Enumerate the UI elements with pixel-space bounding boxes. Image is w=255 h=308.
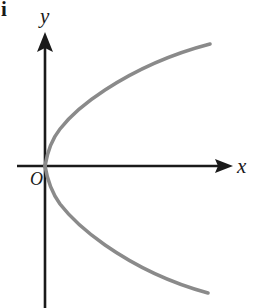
x-axis-label: x: [237, 156, 246, 177]
origin-label: O: [30, 170, 43, 188]
parabola-lower-branch: [45, 166, 208, 293]
parabola-upper-branch: [45, 44, 210, 166]
parabola-figure: i y x O: [0, 0, 255, 308]
y-axis-label: y: [40, 6, 49, 27]
graph-canvas: [0, 0, 255, 308]
item-label: i: [1, 0, 7, 20]
